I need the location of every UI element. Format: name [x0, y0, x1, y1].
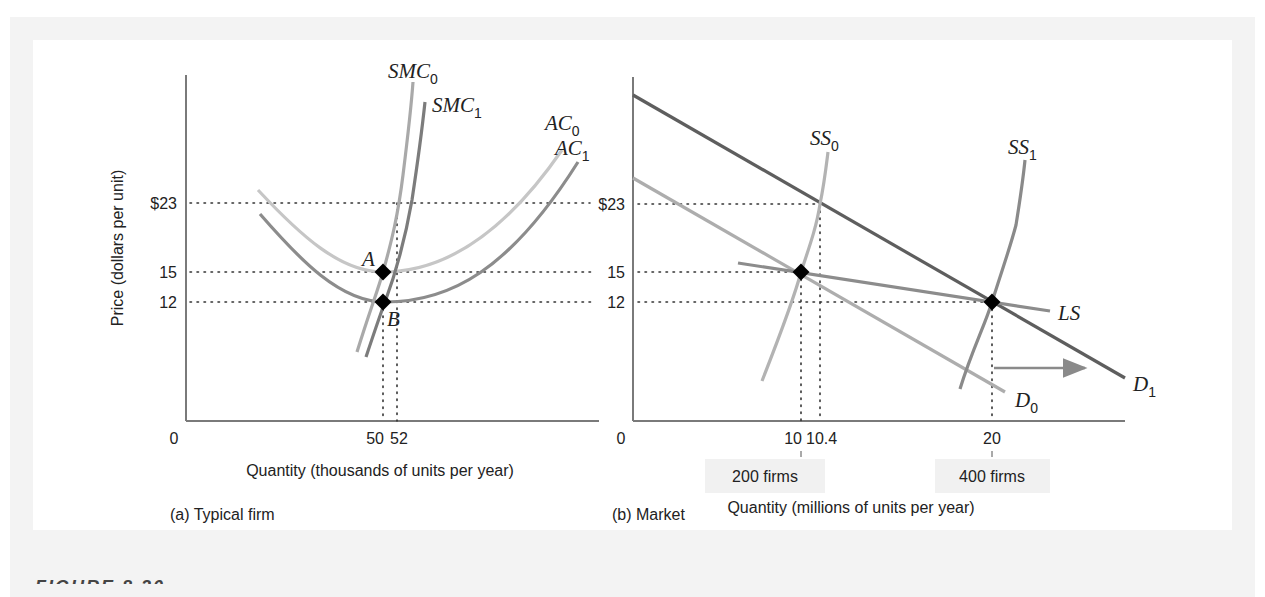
smc0-label: SMC0	[388, 59, 438, 87]
right-y-tick-23: $23	[598, 196, 625, 213]
panel-typical-firm: SMC0 SMC1 AC0 AC1 A B $23 15 12 0 50 52 …	[109, 59, 599, 523]
ac0-label: AC0	[543, 111, 580, 139]
right-x-axis-title: Quantity (millions of units per year)	[727, 499, 974, 516]
point-a-marker	[375, 264, 392, 281]
smc0-curve	[357, 82, 413, 352]
left-y-tick-12: 12	[159, 294, 177, 311]
left-x-axis-title: Quantity (thousands of units per year)	[246, 462, 514, 479]
smc1-label: SMC1	[432, 93, 482, 121]
right-x-tick-10: 10	[784, 430, 802, 447]
left-x-tick-50: 50	[366, 430, 384, 447]
left-y-tick-23: $23	[150, 195, 177, 212]
ac1-label: AC1	[553, 136, 590, 164]
ss1-label: SS1	[1008, 135, 1037, 163]
equilibrium-point-2	[984, 294, 1001, 311]
firms-400-label: 400 firms	[959, 468, 1025, 485]
panel-b-title: (b) Market	[612, 506, 685, 523]
panel-market: SS0 SS1 LS D0 D1 $23 15 12 0 10 10.4 20 …	[598, 77, 1156, 523]
left-origin-label: 0	[170, 430, 179, 447]
ss0-label: SS0	[810, 126, 839, 154]
ac1-curve	[260, 162, 578, 302]
left-y-tick-15: 15	[159, 264, 177, 281]
right-y-tick-12: 12	[607, 294, 625, 311]
right-y-tick-15: 15	[607, 264, 625, 281]
ss1-curve	[960, 160, 1025, 389]
point-b-label: B	[387, 307, 400, 331]
point-a-label: A	[360, 247, 375, 271]
figure-caption: FIGURE 8.20	[35, 577, 165, 584]
ls-label: LS	[1057, 301, 1081, 325]
panel-a-title: (a) Typical firm	[170, 506, 275, 523]
right-x-tick-10-4: 10.4	[806, 430, 837, 447]
right-origin-label: 0	[617, 430, 626, 447]
left-y-axis-title: Price (dollars per unit)	[109, 170, 126, 327]
firms-200-label: 200 firms	[732, 468, 798, 485]
left-x-tick-52: 52	[390, 430, 408, 447]
right-x-tick-20: 20	[983, 430, 1001, 447]
right-reference-lines	[638, 204, 992, 421]
d1-label: D1	[1132, 372, 1156, 400]
d1-curve	[633, 95, 1125, 378]
d0-label: D0	[1014, 388, 1038, 416]
